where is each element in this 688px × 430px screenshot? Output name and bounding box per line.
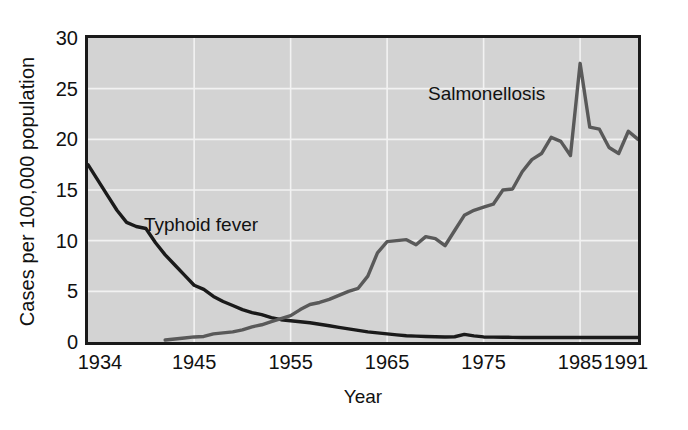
series-lines <box>88 63 638 340</box>
x-axis-tick-labels: 1934194519551965197519851991 <box>0 352 688 382</box>
x-axis-title: Year <box>85 386 641 408</box>
series-line-salmonellosis <box>165 63 638 340</box>
plot-area <box>85 35 641 345</box>
series-label-salmonellosis: Salmonellosis <box>428 83 545 105</box>
chart-figure: Cases per 100,000 population 30252015105… <box>0 0 688 430</box>
y-tick-label-10: 10 <box>34 231 78 251</box>
y-tick-label-25: 25 <box>34 79 78 99</box>
plot-svg <box>88 38 638 342</box>
y-tick-label-15: 15 <box>34 180 78 200</box>
x-tick-label-1975: 1975 <box>461 352 506 372</box>
x-tick-label-1934: 1934 <box>78 352 123 372</box>
x-tick-label-1945: 1945 <box>172 352 217 372</box>
x-tick-label-1985: 1985 <box>558 352 603 372</box>
x-tick-label-1991: 1991 <box>604 352 649 372</box>
gridlines <box>88 38 638 342</box>
x-tick-label-1955: 1955 <box>268 352 313 372</box>
series-label-typhoid-fever: Typhoid fever <box>144 214 258 236</box>
y-tick-label-5: 5 <box>34 281 78 301</box>
y-tick-label-0: 0 <box>34 332 78 352</box>
y-tick-label-20: 20 <box>34 129 78 149</box>
y-tick-label-30: 30 <box>34 28 78 48</box>
x-tick-label-1965: 1965 <box>365 352 410 372</box>
